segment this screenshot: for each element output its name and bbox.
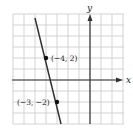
x-axis-arrow-icon <box>116 78 123 83</box>
coordinate-plane: x y (−4, 2) (−3, −2) <box>0 0 133 132</box>
point-label-1: (−4, 2) <box>51 54 78 63</box>
grid <box>13 14 124 124</box>
point-neg4-2 <box>44 56 48 60</box>
y-axis-label: y <box>86 3 93 13</box>
y-axis-arrow-icon <box>88 14 93 21</box>
x-axis-label: x <box>126 75 131 85</box>
point-neg3-neg2 <box>55 100 59 104</box>
point-label-2: (−3, −2) <box>17 98 50 107</box>
